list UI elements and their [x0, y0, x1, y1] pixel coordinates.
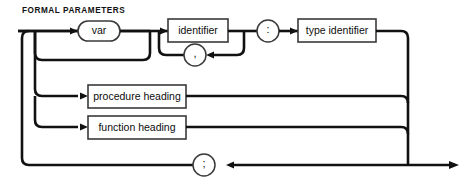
arrow-into-identifier [160, 28, 168, 35]
railroad-canvas: var identifier , : type identifier [0, 0, 470, 188]
arrow-into-procedure-heading [80, 93, 88, 100]
colon-label: : [266, 23, 269, 35]
formal-parameters-railroad-diagram: FORMAL PARAMETERS var identifier , : [0, 0, 470, 188]
var-label: var [92, 24, 107, 36]
top-branch-to-merge [376, 31, 408, 165]
comma-label: , [193, 47, 196, 59]
semicolon-label: ; [202, 157, 205, 169]
arrow-into-comma [206, 52, 214, 59]
arrow-into-function-heading [80, 124, 88, 131]
function-heading-label: function heading [98, 121, 175, 133]
arrow-into-var [70, 28, 78, 35]
procedure-heading-label: procedure heading [93, 90, 181, 102]
type-identifier-label: type identifier [306, 24, 369, 36]
function-branch-to-merge [186, 127, 408, 134]
procedure-branch-to-merge [186, 96, 408, 103]
arrow-into-semicolon [226, 162, 234, 169]
arrow-exit [449, 161, 459, 169]
function-branch-drop [35, 96, 78, 127]
identifier-label: identifier [178, 24, 218, 36]
alt-branch-drop [35, 31, 78, 96]
arrow-into-type-identifier [290, 28, 298, 35]
